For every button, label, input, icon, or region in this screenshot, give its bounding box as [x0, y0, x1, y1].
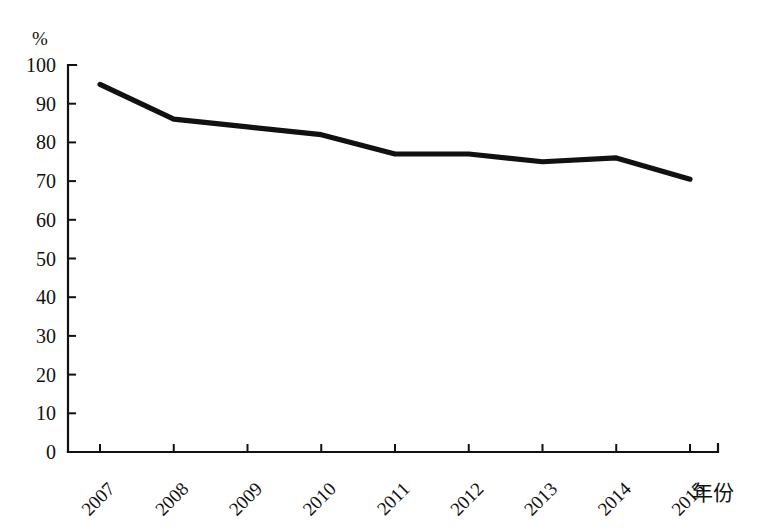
x-tick-label: 2007	[77, 478, 119, 520]
x-tick-label: 2014	[593, 478, 635, 520]
x-tick-label: 2011	[373, 478, 414, 519]
y-tick-label: 10	[36, 402, 56, 424]
y-tick-label: 40	[36, 286, 56, 308]
chart-canvas: % 1009080706050403020100 200720082009201…	[0, 0, 757, 530]
y-tick-label: 70	[36, 170, 56, 192]
x-axis-line	[68, 444, 718, 452]
x-tick-label: 2008	[151, 478, 193, 520]
y-axis-ticks	[68, 65, 76, 452]
y-tick-label: 20	[36, 364, 56, 386]
y-axis-tick-labels: 1009080706050403020100	[26, 54, 56, 463]
y-tick-label: 60	[36, 209, 56, 231]
y-tick-label: 0	[46, 441, 56, 463]
y-tick-label: 80	[36, 131, 56, 153]
x-axis-tick-labels: 200720082009201020112012201320142015	[77, 478, 709, 520]
y-tick-label: 50	[36, 248, 56, 270]
y-tick-label: 100	[26, 54, 56, 76]
x-axis-ticks	[100, 444, 690, 452]
x-tick-label: 2012	[446, 478, 488, 520]
y-tick-label: 30	[36, 325, 56, 347]
y-axis-unit-label: %	[32, 28, 48, 49]
x-tick-label: 2010	[298, 478, 340, 520]
x-tick-label: 2013	[520, 478, 562, 520]
x-axis-title: 年份	[692, 481, 734, 504]
x-tick-label: 2009	[225, 478, 267, 520]
line-chart: % 1009080706050403020100 200720082009201…	[0, 0, 757, 530]
y-tick-label: 90	[36, 93, 56, 115]
data-series-line	[100, 84, 690, 179]
